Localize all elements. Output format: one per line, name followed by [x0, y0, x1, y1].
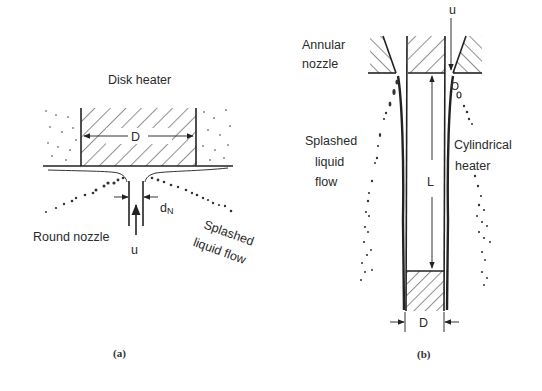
annular-nozzle-label-line2: nozzle [302, 57, 338, 71]
liquid-film-left-b [398, 76, 404, 310]
diameter-d-label-b: D [419, 316, 428, 330]
round-nozzle-label: Round nozzle [33, 230, 109, 244]
liquid-film-left [48, 170, 127, 182]
splash-droplets-left-b [360, 80, 399, 282]
jet-impingement-diagram: Disk heater D [0, 0, 542, 391]
annular-nozzle-block-right [453, 36, 482, 73]
splash-droplets-right-b [452, 83, 491, 287]
disk-heater-label: Disk heater [108, 73, 171, 87]
velocity-u-label: u [131, 243, 138, 257]
cylindrical-heater-label-line1: Cylindrical [454, 138, 512, 152]
liquid-film-right-b [447, 76, 453, 310]
length-l-label: L [427, 175, 434, 189]
splashed-label-b-line1: Splashed [305, 134, 357, 148]
heater-wall-left [406, 36, 407, 311]
heater-top-support [408, 36, 445, 73]
cylindrical-heater-label-line2: heater [455, 159, 490, 173]
splashed-liquid-flow-label-a: Splashed liquid flow [191, 216, 255, 267]
panel-a-caption: (a) [113, 347, 126, 360]
panel-b-caption: (b) [417, 348, 431, 361]
splashed-label-b-line3: flow [315, 175, 338, 189]
heater-bottom-support [406, 271, 444, 311]
splash-droplets-left [45, 177, 124, 213]
annular-nozzle-block-left [370, 36, 396, 73]
nozzle-diameter-label: dN [160, 201, 173, 216]
velocity-u-label-b: u [449, 3, 456, 17]
splashed-label-b-line2: liquid [315, 155, 344, 169]
panel-a-disk-heater: Disk heater D [33, 73, 256, 360]
panel-b-cylindrical-heater: Annular nozzle u L D [302, 3, 512, 361]
annular-nozzle-label-line1: Annular [302, 38, 345, 52]
heater-wall-right [444, 36, 445, 311]
diameter-d-label: D [131, 130, 140, 144]
